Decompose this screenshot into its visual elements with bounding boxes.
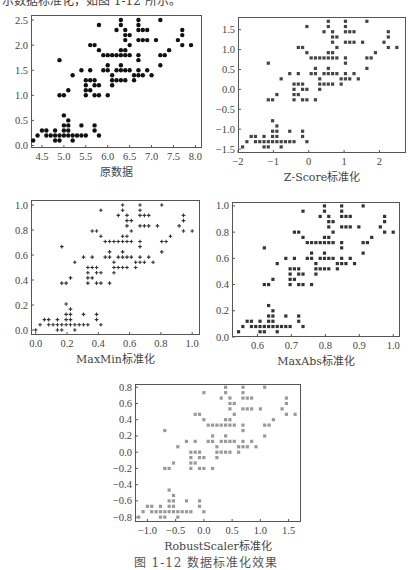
data-point	[306, 257, 309, 260]
data-point	[258, 325, 261, 328]
data-point	[138, 245, 142, 249]
data-point	[97, 93, 101, 97]
data-point	[86, 271, 90, 275]
data-point	[297, 93, 300, 96]
data-point	[38, 323, 42, 327]
data-point	[293, 231, 296, 234]
data-point	[344, 72, 347, 75]
data-point	[172, 461, 175, 464]
data-point	[276, 330, 279, 333]
data-point	[365, 56, 368, 59]
data-point	[158, 53, 162, 57]
data-point	[180, 28, 184, 32]
data-point	[64, 281, 68, 285]
data-point	[365, 20, 368, 23]
data-point	[110, 53, 114, 57]
data-point	[327, 220, 330, 223]
data-point	[114, 53, 118, 57]
data-point	[151, 260, 155, 264]
data-point	[86, 266, 90, 270]
data-point	[134, 266, 138, 270]
data-point	[331, 30, 334, 33]
data-point	[335, 56, 338, 59]
data-point	[241, 391, 244, 394]
y-tick-label: 0.8	[15, 225, 28, 236]
data-point	[263, 283, 266, 286]
data-point	[176, 445, 179, 448]
y-tick-label: 1.0	[216, 200, 229, 211]
data-point	[92, 128, 96, 132]
data-point	[318, 83, 321, 86]
data-point	[246, 445, 249, 448]
data-point	[262, 135, 265, 138]
data-point	[60, 245, 64, 249]
data-point	[95, 271, 99, 275]
data-point	[123, 53, 127, 57]
data-point	[125, 266, 129, 270]
data-point	[327, 56, 330, 59]
data-point	[275, 130, 278, 133]
data-point	[154, 38, 158, 42]
data-point	[181, 510, 184, 513]
data-point	[370, 236, 373, 239]
data-point	[331, 56, 334, 59]
y-tick-label: −0.5	[216, 104, 235, 115]
data-point	[156, 224, 160, 228]
data-point	[228, 440, 231, 443]
data-point	[73, 328, 77, 332]
data-point	[271, 98, 274, 101]
data-point	[56, 318, 60, 322]
data-point	[301, 46, 304, 49]
data-point	[284, 325, 287, 328]
data-point	[314, 67, 317, 70]
data-point	[119, 18, 123, 22]
data-point	[136, 68, 140, 72]
y-tick-label: 0.6	[15, 250, 28, 261]
x-tick-label: 0.7	[285, 340, 298, 351]
data-point	[69, 313, 73, 317]
data-point	[395, 46, 398, 49]
data-point	[336, 267, 339, 270]
data-point	[121, 240, 125, 244]
data-point	[198, 467, 201, 470]
data-point	[322, 56, 325, 59]
data-point	[168, 488, 171, 491]
y-tick-label: 0.4	[15, 275, 29, 286]
data-point	[106, 93, 110, 97]
y-tick-label: 1.0	[222, 44, 235, 55]
data-point	[340, 77, 343, 80]
data-point	[331, 41, 334, 44]
data-point	[323, 267, 326, 270]
data-point	[70, 73, 74, 77]
data-point	[123, 28, 127, 32]
data-point	[108, 240, 112, 244]
data-point	[84, 83, 88, 87]
data-point	[99, 271, 103, 275]
data-point	[340, 257, 343, 260]
data-point	[336, 262, 339, 265]
data-point	[125, 219, 129, 223]
data-point	[310, 241, 313, 244]
data-point	[185, 510, 188, 513]
data-point	[314, 262, 317, 265]
data-point	[103, 255, 107, 259]
x-tick-label: 0.0	[29, 338, 42, 349]
data-point	[56, 323, 60, 327]
data-point	[99, 323, 103, 327]
data-point	[44, 128, 48, 132]
scatter-panel-maxmin: 0.00.20.40.60.81.00.00.20.40.60.81.0MaxM…	[31, 200, 200, 335]
data-point	[182, 214, 186, 218]
data-point	[82, 255, 86, 259]
data-point	[297, 231, 300, 234]
data-point	[86, 323, 90, 327]
data-point	[293, 413, 296, 416]
data-point	[92, 83, 96, 87]
data-point	[79, 123, 83, 127]
data-point	[53, 138, 57, 142]
data-point	[327, 67, 330, 70]
data-point	[119, 23, 123, 27]
x-tick-label: 0	[306, 156, 311, 167]
data-point	[84, 93, 88, 97]
data-point	[136, 58, 140, 62]
y-tick-label: −1.5	[216, 144, 235, 155]
